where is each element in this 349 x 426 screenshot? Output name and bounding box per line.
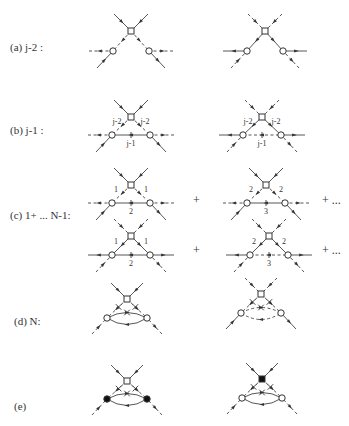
open-circle-vertex	[244, 48, 250, 54]
arrow-head-icon	[137, 191, 141, 195]
loop-propagator-lower	[241, 313, 281, 320]
arrow-head-icon	[125, 392, 130, 395]
edge-label: 1	[144, 185, 148, 194]
arrow-head-icon	[260, 391, 265, 394]
arrow-head-icon	[161, 253, 166, 256]
arrow-head-icon	[258, 318, 263, 321]
edge-label: 2	[129, 207, 133, 216]
open-square-vertex	[262, 28, 268, 34]
loop-propagator-lower	[107, 399, 147, 406]
edge-label: j-1	[257, 139, 267, 148]
arrow-head-icon	[121, 37, 125, 42]
open-square-vertex	[128, 114, 134, 120]
arrow-head-icon	[294, 49, 299, 52]
open-circle-vertex	[109, 252, 115, 258]
arrow-head-icon	[124, 404, 129, 407]
open-circle-vertex	[239, 395, 245, 401]
arrow-head-icon	[137, 37, 141, 42]
feynman-diagram-figure: j-2j-2j-1j-2j-2j-1112223112223	[0, 0, 349, 426]
open-square-vertex	[124, 296, 130, 302]
open-circle-vertex	[146, 48, 152, 54]
open-circle-vertex	[282, 200, 288, 206]
edge-label: j-2	[271, 117, 281, 126]
arrow-head-icon	[259, 306, 264, 309]
edge-label: 2	[249, 185, 253, 194]
edge-label: 3	[267, 259, 271, 268]
arrow-head-icon	[97, 49, 102, 52]
open-circle-vertex	[280, 48, 286, 54]
arrow-head-icon	[96, 133, 101, 136]
open-square-vertex	[263, 182, 269, 188]
arrow-head-icon	[256, 191, 260, 195]
arrow-head-icon	[296, 201, 301, 204]
open-circle-vertex	[240, 132, 246, 138]
edge-label: 2	[129, 259, 133, 268]
open-circle-vertex	[104, 315, 110, 321]
arrow-head-icon	[231, 49, 236, 52]
open-circle-vertex	[109, 132, 115, 138]
open-circle-vertex	[247, 252, 253, 258]
edge-label: j-2	[243, 117, 253, 126]
open-circle-vertex	[244, 200, 250, 206]
arrow-head-icon	[161, 133, 166, 136]
loop-propagator-lower	[107, 318, 147, 325]
open-circle-vertex	[109, 200, 115, 206]
open-square-vertex	[259, 114, 265, 120]
edge-label: j-1	[126, 139, 136, 148]
edge-label: 2	[279, 185, 283, 194]
open-circle-vertex	[278, 310, 284, 316]
arrow-head-icon	[227, 133, 232, 136]
filled-circle-vertex	[144, 396, 150, 402]
arrow-head-icon	[299, 253, 304, 256]
arrow-head-icon	[96, 201, 101, 204]
filled-circle-vertex	[104, 396, 110, 402]
open-circle-vertex	[285, 252, 291, 258]
arrow-head-icon	[231, 201, 236, 204]
edge-label: j-2	[112, 117, 122, 126]
arrow-head-icon	[121, 191, 125, 195]
edge-label: 1	[114, 185, 118, 194]
open-square-vertex	[128, 182, 134, 188]
arrow-head-icon	[292, 133, 297, 136]
open-circle-vertex	[238, 310, 244, 316]
open-circle-vertex	[278, 132, 284, 138]
open-square-vertex	[258, 291, 264, 297]
open-square-vertex	[128, 233, 134, 239]
open-square-vertex	[266, 233, 272, 239]
filled-square-vertex	[259, 376, 265, 382]
open-square-vertex	[124, 378, 130, 384]
edge-label: 1	[144, 237, 148, 246]
edge-label: 2	[282, 237, 286, 246]
open-square-vertex	[128, 28, 134, 34]
edge-label: 3	[264, 207, 268, 216]
arrow-head-icon	[161, 201, 166, 204]
open-circle-vertex	[147, 200, 153, 206]
open-circle-vertex	[279, 395, 285, 401]
arrow-head-icon	[259, 403, 264, 406]
open-circle-vertex	[144, 315, 150, 321]
open-circle-vertex	[147, 252, 153, 258]
edge-label: 2	[252, 237, 256, 246]
arrow-head-icon	[160, 49, 165, 52]
edge-label: 1	[114, 237, 118, 246]
arrow-head-icon	[272, 191, 276, 195]
open-circle-vertex	[110, 48, 116, 54]
arrow-head-icon	[125, 311, 130, 314]
edge-label: j-2	[140, 117, 150, 126]
open-circle-vertex	[147, 132, 153, 138]
arrow-head-icon	[234, 253, 239, 256]
arrow-head-icon	[96, 253, 101, 256]
arrow-head-icon	[124, 323, 129, 326]
loop-propagator-lower	[242, 398, 282, 405]
